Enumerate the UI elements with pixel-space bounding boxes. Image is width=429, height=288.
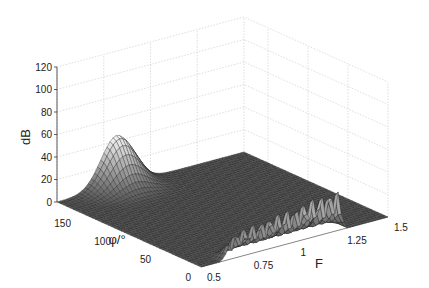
y-tick-label: 50 — [140, 254, 152, 265]
z-axis-label: dB — [18, 129, 33, 145]
z-tick-label: 0 — [46, 197, 52, 208]
x-tick-label: 0.5 — [207, 272, 221, 283]
z-tick-label: 60 — [41, 129, 53, 140]
x-tick-label: 0.75 — [254, 260, 274, 271]
z-tick-label: 40 — [41, 152, 53, 163]
z-tick-label: 20 — [41, 174, 53, 185]
y-axis-label: φ/° — [108, 232, 125, 247]
y-tick-label: 150 — [54, 218, 71, 229]
chart-svg: 0204060801001200501001500.50.7511.251.5 … — [0, 0, 429, 288]
z-tick-label: 100 — [35, 84, 52, 95]
z-tick-label: 80 — [41, 107, 53, 118]
surface-chart: 0204060801001200501001500.50.7511.251.5 … — [0, 0, 429, 288]
x-tick-label: 1 — [301, 247, 307, 258]
x-tick-label: 1.5 — [394, 222, 408, 233]
x-axis-label: F — [315, 256, 323, 271]
surface-mesh — [57, 135, 388, 267]
x-tick-label: 1.25 — [347, 235, 367, 246]
y-tick-label: 0 — [185, 272, 191, 283]
z-tick-label: 120 — [35, 62, 52, 73]
